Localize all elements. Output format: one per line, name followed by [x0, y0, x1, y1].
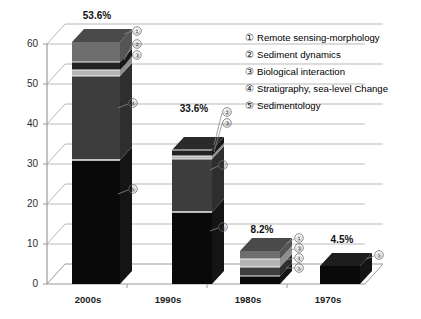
- legend-item-stratigraphy: ④ Stratigraphy, sea-level Change: [245, 83, 421, 94]
- marker-1970s-5: ⑤: [376, 252, 382, 259]
- legend-item-sedimentology: ⑤ Sedimentology: [245, 100, 421, 111]
- legend-item-sediment-dynamics: ② Sediment dynamics: [245, 49, 421, 60]
- legend-label-1: Remote sensing-morphology: [257, 32, 380, 43]
- marker-1980s-5: ⑤: [296, 265, 302, 272]
- value-label-1970s: 4.5%: [331, 234, 354, 245]
- marker-1990s-3: ③: [224, 120, 230, 127]
- y-tick-0: 0: [32, 278, 38, 289]
- chart-container: 60 50 40 30 20 10 0: [0, 0, 421, 319]
- marker-1990s-2: ②: [224, 109, 230, 116]
- marker-1980s-3: ③: [296, 245, 302, 252]
- value-label-1980s: 8.2%: [251, 224, 274, 235]
- bar-1990s[interactable]: [172, 137, 224, 284]
- x-label-1980s: 1980s: [235, 294, 261, 305]
- legend-label-4: Stratigraphy, sea-level Change: [257, 83, 388, 94]
- y-tick-20: 20: [27, 198, 39, 209]
- marker-2000s-4: ④: [130, 100, 136, 107]
- marker-2000s-2: ②: [134, 41, 140, 48]
- y-tick-40: 40: [27, 118, 39, 129]
- marker-2000s-1: ①: [134, 28, 140, 35]
- y-tick-50: 50: [27, 78, 39, 89]
- bar-2000s[interactable]: [72, 29, 132, 284]
- legend-label-2: Sediment dynamics: [257, 49, 341, 60]
- legend-label-3: Biological interaction: [257, 66, 345, 77]
- marker-1990s-5: ⑤: [220, 224, 226, 231]
- legend-marker-3: ③: [245, 66, 257, 77]
- legend-item-biological-interaction: ③ Biological interaction: [245, 66, 421, 77]
- marker-1980s-1: ①: [296, 235, 302, 242]
- marker-2000s-3: ③: [134, 52, 140, 59]
- bar-1970s[interactable]: [320, 253, 372, 284]
- legend-marker-1: ①: [245, 32, 257, 43]
- x-label-2000s: 2000s: [75, 294, 101, 305]
- legend-marker-5: ⑤: [245, 100, 257, 111]
- bar-1980s[interactable]: [240, 238, 292, 284]
- x-label-1990s: 1990s: [155, 294, 181, 305]
- marker-1990s-4: ④: [220, 162, 226, 169]
- legend-marker-4: ④: [245, 83, 257, 94]
- chart-legend: ① Remote sensing-morphology ② Sediment d…: [245, 32, 421, 117]
- legend-item-remote-sensing: ① Remote sensing-morphology: [245, 32, 421, 43]
- y-tick-60: 60: [27, 38, 39, 49]
- x-axis-labels: 2000s 1990s 1980s 1970s: [75, 294, 341, 305]
- marker-2000s-5: ⑤: [130, 186, 136, 193]
- y-axis-labels: 60 50 40 30 20 10 0: [27, 38, 39, 289]
- y-tick-10: 10: [27, 238, 39, 249]
- value-label-2000s: 53.6%: [83, 10, 111, 21]
- x-label-1970s: 1970s: [315, 294, 341, 305]
- legend-label-5: Sedimentology: [257, 100, 320, 111]
- value-label-1990s: 33.6%: [180, 103, 208, 114]
- y-tick-30: 30: [27, 158, 39, 169]
- legend-marker-2: ②: [245, 49, 257, 60]
- marker-1980s-4: ④: [296, 255, 302, 262]
